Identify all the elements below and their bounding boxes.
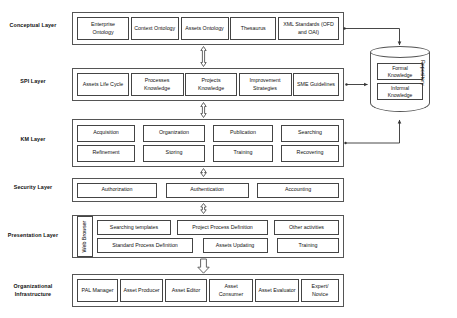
node-xml-standards[interactable]: XML Standards (OFD and OAI) bbox=[278, 17, 339, 40]
repository: Formal Knowledge Informal Knowledge Repo… bbox=[370, 46, 432, 118]
node-storing[interactable]: Storing bbox=[143, 145, 205, 162]
layer-label-km: KM Layer bbox=[0, 136, 66, 144]
architecture-diagram: Conceptual Layer SPI Layer KM Layer Secu… bbox=[0, 0, 457, 318]
node-training-presentation[interactable]: Training bbox=[277, 238, 339, 253]
layer-row: Assets Life Cycle Processes Knowledge Pr… bbox=[73, 73, 343, 96]
layer-band-conceptual: Enterprise Ontology Context Ontology Ass… bbox=[72, 12, 344, 45]
node-searching-templates[interactable]: Searching templates bbox=[97, 220, 171, 235]
node-asset-producer[interactable]: Asset Producer bbox=[120, 279, 163, 302]
layer-label-security: Security Layer bbox=[0, 184, 66, 192]
connector-conceptual-repository bbox=[343, 27, 399, 45]
node-authorization[interactable]: Authorization bbox=[77, 183, 157, 198]
layer-row: Acquisition Organization Publication Sea… bbox=[73, 125, 343, 142]
node-asset-editor[interactable]: Asset Editor bbox=[165, 279, 207, 302]
layer-band-spi: Assets Life Cycle Processes Knowledge Pr… bbox=[72, 68, 344, 101]
layer-band-presentation: Web Browser Searching templates Project … bbox=[72, 215, 344, 258]
connector-conceptual-spi bbox=[201, 47, 206, 67]
node-thesaurus[interactable]: Thesaurus bbox=[230, 17, 276, 40]
node-improvement-strategies[interactable]: Improvement Strategies bbox=[239, 73, 292, 96]
node-assets-updating[interactable]: Assets Updating bbox=[203, 238, 268, 253]
node-projects-knowledge[interactable]: Projects Knowledge bbox=[185, 73, 237, 96]
layer-row: Authorization Authentication Accounting bbox=[73, 183, 343, 198]
layer-row: Refinement Storing Training Recovering bbox=[73, 145, 343, 162]
node-expert-novice[interactable]: Expert/ Novice bbox=[301, 279, 339, 302]
node-enterprise-ontology[interactable]: Enterprise Ontology bbox=[77, 17, 129, 40]
node-asset-evaluator[interactable]: Asset Evaluator bbox=[255, 279, 299, 302]
node-standard-process-definition[interactable]: Standard Process Definition bbox=[97, 238, 193, 253]
layer-label-conceptual: Conceptual Layer bbox=[0, 22, 66, 30]
layer-label-organizational: Organizational Infrastructure bbox=[0, 283, 66, 299]
node-informal-knowledge[interactable]: Informal Knowledge bbox=[377, 83, 423, 100]
node-training[interactable]: Training bbox=[213, 145, 273, 162]
node-other-activities[interactable]: Other activities bbox=[274, 220, 339, 235]
layer-band-organizational: PAL Manager Asset Producer Asset Editor … bbox=[72, 274, 344, 307]
layer-row: Standard Process Definition Assets Updat… bbox=[97, 238, 339, 253]
node-web-browser-label: Web Browser bbox=[81, 221, 88, 253]
connector-spi-repository bbox=[345, 83, 367, 85]
node-assets-life-cycle[interactable]: Assets Life Cycle bbox=[77, 73, 129, 96]
connector-km-security bbox=[201, 169, 206, 177]
node-acquisition[interactable]: Acquisition bbox=[77, 125, 135, 142]
connector-presentation-organizational bbox=[198, 259, 209, 273]
repository-label: Repository bbox=[420, 60, 426, 106]
node-context-ontology[interactable]: Context Ontology bbox=[131, 17, 179, 40]
node-asset-consumer[interactable]: Asset Consumer bbox=[209, 279, 253, 302]
node-searching[interactable]: Searching bbox=[281, 125, 339, 142]
layer-band-km: Acquisition Organization Publication Sea… bbox=[72, 119, 344, 167]
node-recovering[interactable]: Recovering bbox=[281, 145, 339, 162]
connector-km-repository bbox=[344, 120, 399, 144]
node-project-process-definition[interactable]: Project Process Definition bbox=[177, 220, 268, 235]
node-authentication[interactable]: Authentication bbox=[166, 183, 249, 198]
layer-label-spi: SPI Layer bbox=[0, 78, 66, 86]
layer-row: Enterprise Ontology Context Ontology Ass… bbox=[73, 17, 343, 40]
node-formal-knowledge[interactable]: Formal Knowledge bbox=[377, 63, 423, 80]
node-refinement[interactable]: Refinement bbox=[77, 145, 135, 162]
layer-band-security: Authorization Authentication Accounting bbox=[72, 178, 344, 202]
node-assets-ontology[interactable]: Assets Ontology bbox=[181, 17, 229, 40]
node-sme-guidelines[interactable]: SME Guidelines bbox=[293, 73, 339, 96]
node-pal-manager[interactable]: PAL Manager bbox=[77, 279, 118, 302]
node-publication[interactable]: Publication bbox=[213, 125, 273, 142]
layer-label-presentation: Presentation Layer bbox=[0, 232, 66, 240]
connector-spi-km bbox=[201, 103, 206, 118]
layer-row: Searching templates Project Process Defi… bbox=[97, 220, 339, 235]
node-processes-knowledge[interactable]: Processes Knowledge bbox=[131, 73, 184, 96]
node-accounting[interactable]: Accounting bbox=[257, 183, 339, 198]
repository-cylinder-top bbox=[370, 46, 430, 58]
layer-row: PAL Manager Asset Producer Asset Editor … bbox=[73, 279, 343, 302]
node-web-browser[interactable]: Web Browser bbox=[77, 216, 93, 257]
connector-security-presentation bbox=[201, 204, 206, 214]
node-organization[interactable]: Organization bbox=[143, 125, 205, 142]
